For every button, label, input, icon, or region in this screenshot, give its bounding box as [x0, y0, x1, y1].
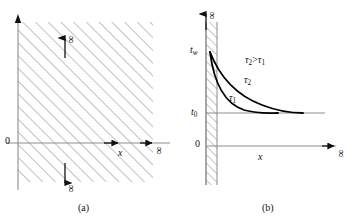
panel-a	[6, 14, 170, 190]
panel-a-hatched-region	[18, 22, 153, 182]
tau-1-curve-label: τ1	[229, 93, 236, 105]
panel-a-down-infinity-label: ∞	[66, 185, 77, 193]
panel-b-x-infinity-label: ∞	[336, 150, 347, 158]
panel-a-y-axis-arrowhead	[15, 14, 21, 23]
panel-b-origin-label: 0	[195, 139, 200, 149]
figure-canvas	[0, 0, 364, 222]
panel-b	[206, 14, 336, 185]
panel-b-wall-hatch	[206, 22, 217, 185]
panel-b-caption: (b)	[262, 202, 274, 213]
tau-1-curve-label-subscript: 1	[233, 97, 237, 105]
panel-b-wall-temp-subscript: w	[193, 49, 198, 57]
panel-b-wall-temp-label: tw	[190, 45, 198, 57]
tau-2-curve-label-subscript: 2	[248, 79, 252, 87]
panel-a-x-infinity-label: ∞	[154, 147, 165, 155]
panel-b-ambient-temp-subscript: 0	[194, 111, 198, 119]
panel-b-ambient-temp-label: t0	[191, 107, 197, 119]
panel-a-origin-label: 0	[5, 136, 10, 146]
panel-b-tau-inequality-annotation: τ2>τ1	[245, 55, 265, 67]
panel-a-caption: (a)	[78, 202, 89, 213]
panel-a-up-infinity-label: ∞	[66, 36, 77, 44]
panel-b-y-infinity-label: ∞	[207, 12, 218, 20]
tau-1-subscript: 1	[261, 59, 265, 67]
tau-2-curve-label: τ2	[244, 75, 251, 87]
panel-b-x-axis-label: x	[258, 152, 262, 162]
panel-a-x-axis-label: x	[118, 148, 122, 158]
